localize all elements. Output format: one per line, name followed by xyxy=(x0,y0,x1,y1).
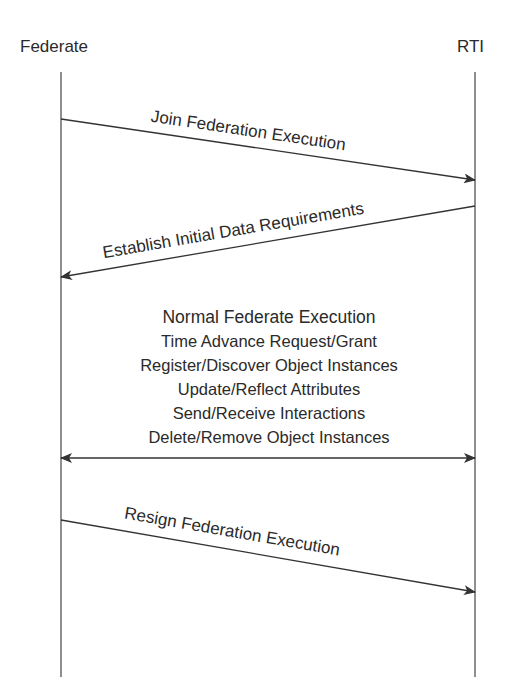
execution-line: Update/Reflect Attributes xyxy=(70,377,468,401)
execution-line: Register/Discover Object Instances xyxy=(70,353,468,377)
execution-block: Normal Federate Execution Time Advance R… xyxy=(70,305,468,449)
execution-line: Delete/Remove Object Instances xyxy=(70,425,468,449)
execution-line: Time Advance Request/Grant xyxy=(70,329,468,353)
execution-title: Normal Federate Execution xyxy=(70,305,468,329)
execution-line: Send/Receive Interactions xyxy=(70,401,468,425)
